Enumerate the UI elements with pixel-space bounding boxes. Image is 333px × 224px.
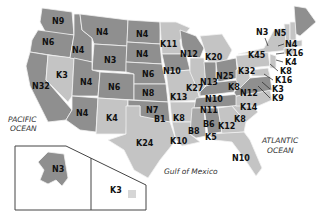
state-hawaii[interactable] xyxy=(128,190,136,198)
label-new-york: K45 xyxy=(248,51,266,60)
label-mississippi: B8 xyxy=(188,127,200,136)
label-louisiana: K10 xyxy=(170,137,188,146)
label-arizona: N4 xyxy=(76,109,89,118)
label-hawaii: K3 xyxy=(110,186,122,195)
label-iowa: N10 xyxy=(163,67,181,76)
label-arkansas: K8 xyxy=(173,114,185,123)
label-minnesota: K11 xyxy=(160,40,178,49)
label-connecticut: K8 xyxy=(280,67,292,76)
label-south-carolina: K8 xyxy=(234,115,246,124)
label-new-hampshire: N4 xyxy=(285,40,298,49)
label-montana: N4 xyxy=(96,28,109,37)
label-california: N32 xyxy=(32,82,50,91)
label-idaho: N4 xyxy=(72,46,85,55)
inset-frame xyxy=(15,146,146,210)
label-tennessee: N11 xyxy=(200,106,218,115)
label-ohio: N25 xyxy=(216,72,234,81)
state-maine[interactable] xyxy=(294,6,316,36)
label-rhode-island: K4 xyxy=(285,58,297,67)
label-kansas: N8 xyxy=(142,89,155,98)
atlantic-ocean-line2: OCEAN xyxy=(267,146,294,155)
label-missouri: K13 xyxy=(170,93,187,102)
us-map: N9 N6 N4 N4 N3 N4 N4 K3 N32 N4 N6 N6 N8 … xyxy=(0,0,333,224)
label-oklahoma-sub: B1 xyxy=(154,115,166,124)
pacific-ocean-line2: OCEAN xyxy=(10,124,37,133)
map-svg: N9 N6 N4 N4 N3 N4 N4 K3 N32 N4 N6 N6 N8 … xyxy=(0,0,333,224)
label-colorado: N6 xyxy=(108,83,121,92)
label-mississippi-sub: K5 xyxy=(205,133,217,142)
label-west-virginia: K8 xyxy=(228,83,240,92)
label-vermont: N3 xyxy=(256,28,268,37)
label-nevada: K3 xyxy=(56,71,68,80)
label-nebraska: N6 xyxy=(142,70,155,79)
label-florida: N10 xyxy=(232,154,250,163)
label-wyoming: N3 xyxy=(104,56,116,65)
inset-alaska-hawaii xyxy=(15,146,146,210)
label-delaware: K3 xyxy=(272,85,284,94)
gulf-of-mexico-label: Gulf of Mexico xyxy=(164,167,218,176)
label-pennsylvania: K32 xyxy=(238,67,255,76)
label-new-jersey: K16 xyxy=(275,76,293,85)
label-south-dakota: N4 xyxy=(136,50,149,59)
label-washington: N9 xyxy=(52,17,65,26)
label-alaska: N3 xyxy=(52,165,64,174)
label-kentucky: N10 xyxy=(205,95,223,104)
label-massachusetts: K16 xyxy=(286,49,304,58)
label-north-dakota: N4 xyxy=(136,30,149,39)
label-virginia: N12 xyxy=(240,89,258,98)
pacific-ocean-line1: PACIFIC xyxy=(8,115,37,124)
label-texas: K24 xyxy=(136,139,154,148)
label-new-mexico: K4 xyxy=(106,114,118,123)
label-alabama: B6 xyxy=(203,120,215,129)
label-michigan: K20 xyxy=(205,53,223,62)
label-oregon: N6 xyxy=(42,38,55,47)
label-north-carolina: K14 xyxy=(240,103,258,112)
label-maryland: K9 xyxy=(272,94,284,103)
label-utah: N4 xyxy=(80,78,93,87)
state-new-jersey[interactable] xyxy=(270,54,276,68)
label-maine: N5 xyxy=(274,29,287,38)
label-oklahoma: N7 xyxy=(146,106,158,115)
label-wisconsin: N12 xyxy=(180,50,198,59)
label-georgia: K12 xyxy=(218,122,235,131)
atlantic-ocean-line1: ATLANTIC xyxy=(261,136,299,145)
